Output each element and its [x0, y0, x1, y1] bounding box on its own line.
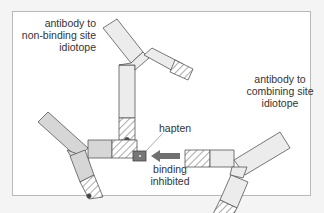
inhibition-arrow — [151, 150, 180, 162]
hapten — [133, 151, 146, 161]
label-antibody-non-binding: antibody to non-binding site idiotope — [18, 17, 96, 53]
right-antibody — [185, 132, 290, 213]
label-antibody-combining: antibody to combining site idiotope — [240, 73, 320, 109]
label-hapten: hapten — [159, 122, 191, 134]
hapten-pointer — [146, 133, 163, 151]
label-binding-inhibited: binding inhibited — [142, 163, 198, 187]
